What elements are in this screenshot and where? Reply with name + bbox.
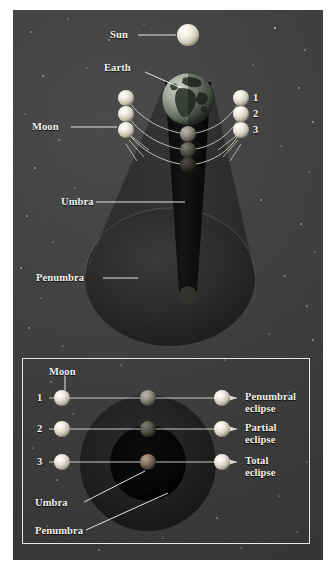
moon-number-3: 3 xyxy=(253,124,258,135)
cs-moon-3-exit xyxy=(214,454,230,470)
starfield-plate: Sun Earth Moon Umbra Penumbra 1 2 3 Moon… xyxy=(13,10,323,560)
cs-moon-3-entry xyxy=(54,454,70,470)
row-number-3: 3 xyxy=(37,456,42,467)
cross-section-layer xyxy=(13,10,323,560)
eclipse-diagram-figure: Sun Earth Moon Umbra Penumbra 1 2 3 Moon… xyxy=(0,0,336,571)
cs-moon-2-exit xyxy=(214,421,230,437)
cs-moon-3-mid xyxy=(140,454,156,470)
row-number-1: 1 xyxy=(37,392,42,403)
moon-path-arrowheads xyxy=(229,395,237,465)
cs-moon-1-exit xyxy=(214,390,230,406)
moon-number-1: 1 xyxy=(253,92,258,103)
cs-moon-2-mid xyxy=(140,421,156,437)
cs-moon-1-mid xyxy=(140,390,156,406)
row-number-2: 2 xyxy=(37,423,42,434)
cs-moon-2-entry xyxy=(54,421,70,437)
cs-moon-1-entry xyxy=(54,390,70,406)
moon-number-2: 2 xyxy=(253,108,258,119)
